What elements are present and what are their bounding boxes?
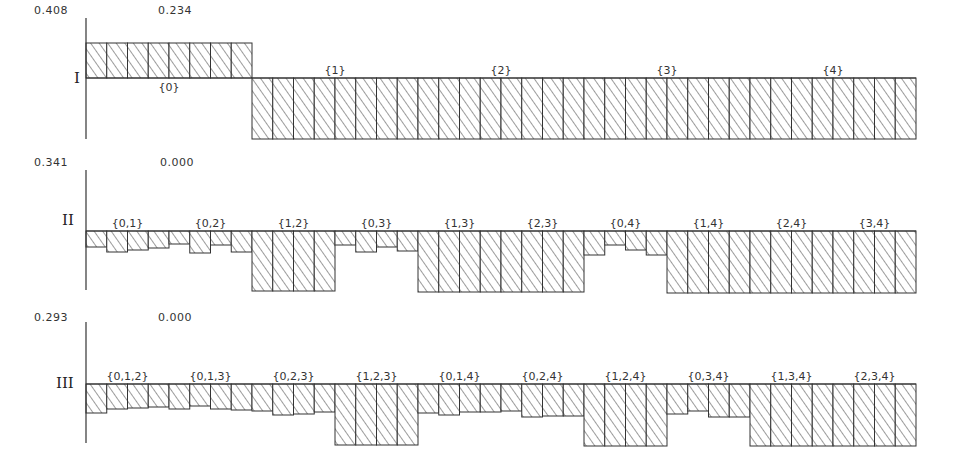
- bar-column: [812, 384, 833, 446]
- panel-ii: 0.341 0.000 II {0,1}{0,2}{1,2}{0,3}{1,3}…: [34, 156, 916, 293]
- bar-column: [439, 78, 460, 139]
- panel-i-max-label: 0.408: [34, 4, 68, 17]
- group-label: {1,3}: [444, 217, 476, 230]
- bar-column: [356, 78, 377, 139]
- bar-column: [688, 78, 709, 139]
- bar-column: [460, 231, 481, 292]
- bar-column: [211, 231, 232, 245]
- panel-i-bars: [86, 43, 916, 139]
- bar-column: [335, 78, 356, 139]
- bar-column: [418, 78, 439, 139]
- panel-iii-max-label: 0.293: [34, 311, 68, 324]
- bar-column: [418, 231, 439, 292]
- bar-column: [646, 78, 667, 139]
- group-label: {0,4}: [610, 217, 642, 230]
- group-label: {1,2}: [278, 217, 310, 230]
- bar-column: [397, 78, 418, 139]
- bar-column: [418, 384, 439, 413]
- bar-column: [501, 384, 522, 411]
- bar-column: [335, 384, 356, 445]
- bar-column: [771, 231, 792, 293]
- bar-column: [563, 231, 584, 292]
- bar-column: [148, 231, 169, 248]
- bar-column: [854, 231, 875, 293]
- bar-column: [273, 231, 294, 291]
- bar-column: [729, 231, 750, 293]
- stacked-panel-bar-diagram: 0.408 0.234 I {0}{1}{2}{3}{4} 0.341 0.00…: [0, 0, 953, 467]
- group-label: {0,1,3}: [190, 370, 232, 383]
- bar-column: [895, 78, 916, 139]
- bar-column: [667, 384, 688, 414]
- bar-column: [190, 231, 211, 253]
- bar-column: [584, 78, 605, 139]
- bar-column: [377, 78, 398, 139]
- bar-column: [875, 78, 896, 139]
- bar-column: [231, 43, 252, 78]
- group-label: {4}: [823, 64, 844, 77]
- bar-column: [480, 231, 501, 292]
- group-label: {0,1,2}: [107, 370, 149, 383]
- bar-column: [273, 78, 294, 139]
- bar-column: [211, 43, 232, 78]
- group-label: {0,2}: [195, 217, 227, 230]
- bar-column: [314, 231, 335, 291]
- bar-column: [314, 78, 335, 139]
- panel-ii-max-label: 0.341: [34, 156, 68, 169]
- group-label: {0,2,4}: [522, 370, 564, 383]
- bar-column: [709, 384, 730, 417]
- bar-column: [626, 78, 647, 139]
- bar-column: [128, 231, 149, 250]
- group-label: {0}: [159, 81, 180, 94]
- bar-column: [833, 231, 854, 293]
- bar-column: [895, 231, 916, 293]
- panel-i: 0.408 0.234 I {0}{1}{2}{3}{4}: [34, 4, 916, 139]
- bar-column: [522, 78, 543, 139]
- bar-column: [190, 384, 211, 406]
- bar-column: [377, 231, 398, 247]
- group-label: {1,3,4}: [771, 370, 813, 383]
- bar-column: [812, 231, 833, 293]
- panel-iii-title: III: [56, 374, 74, 392]
- bar-column: [543, 78, 564, 139]
- group-label: {0,3,4}: [688, 370, 730, 383]
- bar-column: [833, 384, 854, 446]
- bar-column: [688, 384, 709, 411]
- group-label: {2}: [491, 64, 512, 77]
- group-label: {1}: [325, 64, 346, 77]
- bar-column: [356, 231, 377, 252]
- panel-ii-group-labels: {0,1}{0,2}{1,2}{0,3}{1,3}{2,3}{0,4}{1,4}…: [112, 217, 891, 230]
- bar-column: [771, 384, 792, 446]
- bar-column: [148, 384, 169, 407]
- bar-column: [895, 384, 916, 446]
- bar-column: [294, 384, 315, 414]
- bar-column: [667, 78, 688, 139]
- bar-column: [294, 231, 315, 291]
- bar-column: [812, 78, 833, 139]
- bar-column: [875, 231, 896, 293]
- group-label: {3}: [657, 64, 678, 77]
- bar-column: [750, 231, 771, 293]
- panel-iii-ref-label: 0.000: [158, 311, 192, 324]
- group-label: {2,3,4}: [854, 370, 896, 383]
- bar-column: [854, 384, 875, 446]
- bar-column: [626, 384, 647, 446]
- panel-iii: 0.293 0.000 III {0,1,2}{0,1,3}{0,2,3}{1,…: [34, 311, 916, 446]
- bar-column: [252, 384, 273, 411]
- bar-column: [439, 231, 460, 292]
- group-label: {0,3}: [361, 217, 393, 230]
- bar-column: [563, 78, 584, 139]
- group-label: {3,4}: [859, 217, 891, 230]
- bar-column: [584, 231, 605, 255]
- bar-column: [646, 231, 667, 255]
- bar-column: [460, 384, 481, 412]
- bar-column: [169, 43, 190, 78]
- bar-column: [771, 78, 792, 139]
- group-label: {1,2,3}: [356, 370, 398, 383]
- bar-column: [480, 78, 501, 139]
- bar-column: [729, 384, 750, 417]
- bar-column: [86, 231, 107, 247]
- bar-column: [854, 78, 875, 139]
- bar-column: [190, 43, 211, 78]
- bar-column: [709, 231, 730, 293]
- bar-column: [792, 78, 813, 139]
